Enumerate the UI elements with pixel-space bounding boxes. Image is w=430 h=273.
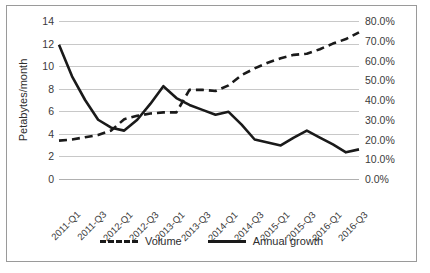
y-axis-title-label: Petabytes/month: [17, 59, 29, 142]
y-axis-left-tick-label: 10: [42, 61, 54, 72]
y-axis-title: Petabytes/month: [15, 21, 31, 179]
legend-label: Volume: [145, 235, 182, 247]
y-axis-right-tick-label: 60.0%: [365, 55, 395, 66]
legend-swatch-solid-line-icon: [208, 240, 246, 243]
y-axis-right-tick-label: 0.0%: [365, 174, 389, 185]
y-axis-right-tick-label: 30.0%: [365, 115, 395, 126]
series-line-annual-growth: [59, 45, 359, 153]
y-axis-right-tick-label: 20.0%: [365, 134, 395, 145]
series-lines: [59, 21, 359, 179]
chart-legend: VolumeAnnual growth: [7, 235, 416, 247]
legend-label: Annual growth: [253, 235, 323, 247]
gridline: [59, 179, 359, 180]
y-axis-left-tick-label: 6: [48, 106, 54, 117]
plot-area: 02468101214 0.0%10.0%20.0%30.0%40.0%50.0…: [59, 21, 359, 179]
legend-item-annual-growth[interactable]: Annual growth: [208, 235, 323, 247]
y-axis-left-tick-label: 14: [42, 16, 54, 27]
chart-container: Petabytes/month 02468101214 0.0%10.0%20.…: [6, 5, 417, 262]
y-axis-right-tick-label: 80.0%: [365, 16, 395, 27]
y-axis-left-tick-label: 4: [48, 129, 54, 140]
y-axis-right-tick-label: 70.0%: [365, 36, 395, 47]
y-axis-right-tick-label: 50.0%: [365, 75, 395, 86]
y-axis-left-tick-label: 8: [48, 83, 54, 94]
y-axis-right-tick-label: 40.0%: [365, 95, 395, 106]
legend-swatch-dashed-line-icon: [100, 240, 138, 243]
y-axis-left-tick-label: 0: [48, 174, 54, 185]
legend-item-volume[interactable]: Volume: [100, 235, 182, 247]
y-axis-left-tick-label: 12: [42, 38, 54, 49]
y-axis-right-tick-label: 10.0%: [365, 154, 395, 165]
y-axis-left-tick-label: 2: [48, 151, 54, 162]
